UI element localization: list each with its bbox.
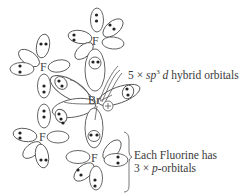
svg-text:F: F xyxy=(91,151,98,165)
hybrid-orbitals-label: 5 × sp3 d hybrid orbitals xyxy=(128,66,239,82)
hybrid-suffix: hybrid orbitals xyxy=(168,69,238,81)
hybrid-prefix: 5 × xyxy=(128,69,146,81)
svg-text:F: F xyxy=(92,34,99,48)
fluorine-line2-suffix: -orbitals xyxy=(158,162,196,174)
fluorine-upper-left: F xyxy=(10,33,94,108)
fluorine-top: F xyxy=(67,8,126,91)
svg-text:F: F xyxy=(39,130,46,144)
fluorine-note: Each Fluorine has 3 × p-orbitals xyxy=(134,149,217,175)
hybrid-sp: sp xyxy=(146,69,156,81)
svg-text:Br: Br xyxy=(88,93,100,107)
fluorine-line2-prefix: 3 × xyxy=(134,162,152,174)
fluorine-note-line2: 3 × p-orbitals xyxy=(134,162,217,175)
fluorine-note-line1: Each Fluorine has xyxy=(134,149,217,162)
svg-text:F: F xyxy=(40,60,47,74)
fluorine-bottom: F xyxy=(66,108,128,190)
